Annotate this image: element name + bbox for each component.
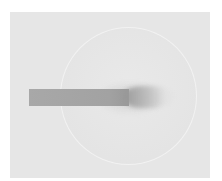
rod-bar	[29, 89, 129, 106]
rod-tip-blur	[124, 86, 174, 108]
